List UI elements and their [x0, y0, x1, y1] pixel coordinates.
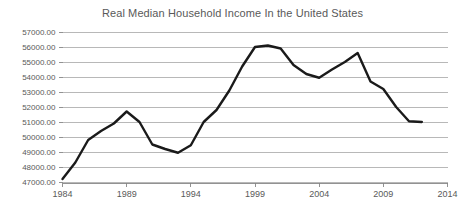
x-axis-tick-label: 2014 [437, 189, 457, 199]
x-axis-labels: 1984198919941999200420092014 [52, 189, 457, 199]
y-axis-tick-label: 51000.00 [22, 118, 56, 127]
x-axis-tick-label: 1984 [52, 189, 72, 199]
data-line-series [63, 46, 422, 180]
y-axis-tick-label: 54000.00 [22, 73, 56, 82]
x-axis-tick-label: 2004 [309, 189, 329, 199]
y-axis-tick-label: 49000.00 [22, 148, 56, 157]
y-axis-tick-label: 56000.00 [22, 43, 56, 52]
y-axis-tick-label: 53000.00 [22, 88, 56, 97]
chart-container: Real Median Household Income In the Unit… [0, 0, 465, 212]
y-axis-tick-label: 52000.00 [22, 103, 56, 112]
y-axis-tick-label: 47000.00 [22, 178, 56, 187]
gridlines [63, 32, 448, 182]
y-axis-tick-label: 57000.00 [22, 28, 56, 37]
x-axis-tick-label: 1994 [181, 189, 201, 199]
x-axis [63, 183, 448, 187]
x-axis-tick-label: 1999 [245, 189, 265, 199]
x-axis-tick-label: 2009 [373, 189, 393, 199]
y-axis-tick-label: 50000.00 [22, 133, 56, 142]
y-axis-labels: 57000.0056000.0055000.0054000.0053000.00… [22, 28, 62, 187]
line-chart-plot: 57000.0056000.0055000.0054000.0053000.00… [0, 0, 465, 212]
y-axis-tick-label: 55000.00 [22, 58, 56, 67]
y-axis-tick-label: 48000.00 [22, 163, 56, 172]
x-axis-tick-label: 1989 [117, 189, 137, 199]
data-series [63, 46, 422, 180]
